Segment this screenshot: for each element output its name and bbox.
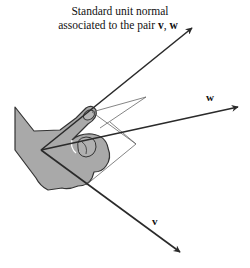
right-hand-rule-diagram: Standard unit normal associated to the p… [0,0,250,268]
caption-line-2: associated to the pair v, w [0,18,250,32]
w-label: w [206,91,214,103]
caption-prefix: associated to the pair [58,19,158,31]
diagram-canvas [0,0,250,268]
v-label: v [152,215,158,227]
caption-line-1: Standard unit normal [0,4,250,18]
normal-caption: Standard unit normal associated to the p… [0,4,250,32]
caption-w: w [169,19,177,31]
normal-vector-arrow [41,28,192,150]
